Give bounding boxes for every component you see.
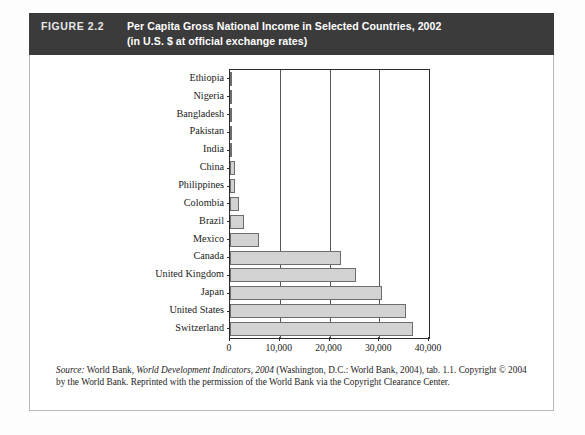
bar-row [230, 320, 429, 338]
bar [230, 215, 244, 229]
bar [230, 179, 235, 193]
bar-row [230, 231, 429, 249]
x-axis-tick [428, 337, 429, 341]
y-axis-category-labels: EthiopiaNigeriaBangladeshPakistanIndiaCh… [150, 69, 228, 337]
y-axis-label: Nigeria [150, 87, 228, 105]
figure-header: FIGURE 2.2 Per Capita Gross National Inc… [29, 13, 554, 55]
bar-row [230, 195, 429, 213]
y-axis-label: Bangladesh [150, 105, 228, 123]
bar-series [230, 70, 429, 338]
y-axis-label: Philippines [150, 176, 228, 194]
bar-row [230, 249, 429, 267]
figure-title-line-1: Per Capita Gross National Income in Sele… [127, 19, 441, 34]
y-axis-label: Brazil [150, 212, 228, 230]
x-axis-tick-label: 0 [227, 342, 232, 353]
bar [230, 143, 232, 157]
source-note: Source: World Bank, World Development In… [56, 364, 530, 389]
y-axis-label: Mexico [150, 230, 228, 248]
y-axis-label: United Kingdom [150, 265, 228, 283]
y-axis-label: China [150, 158, 228, 176]
bar [230, 108, 232, 122]
chart-container: EthiopiaNigeriaBangladeshPakistanIndiaCh… [30, 56, 553, 356]
y-axis-label: Colombia [150, 194, 228, 212]
x-axis-tick-label: 20,000 [315, 342, 341, 353]
bar [230, 90, 232, 104]
source-line-3: Clearance Center. [384, 377, 450, 387]
bar [230, 126, 232, 140]
bar [230, 72, 232, 86]
bar-row [230, 88, 429, 106]
bar-row [230, 70, 429, 88]
source-text-after: (Washington, D.C.: World Bank, 2004), ta… [274, 365, 456, 375]
bar [230, 251, 341, 265]
x-axis-tick [378, 337, 379, 341]
bar [230, 304, 406, 318]
bar-row [230, 284, 429, 302]
bar-row [230, 124, 429, 142]
bar [230, 197, 239, 211]
x-axis-tick [329, 337, 330, 341]
bar-row [230, 177, 429, 195]
bar [230, 268, 356, 282]
x-axis: 010,00020,00030,00040,000 [229, 337, 430, 357]
x-axis-tick-label: 30,000 [365, 342, 391, 353]
bar [230, 286, 382, 300]
y-axis-label: Ethiopia [150, 69, 228, 87]
x-axis-tick-label: 40,000 [415, 342, 441, 353]
bar-row [230, 141, 429, 159]
source-word: Source: [56, 365, 85, 375]
bar-row [230, 159, 429, 177]
figure-title-block: Per Capita Gross National Income in Sele… [127, 19, 441, 48]
y-axis-label: Switzerland [150, 319, 228, 337]
figure-number-label: FIGURE 2.2 [29, 19, 127, 48]
figure-page: FIGURE 2.2 Per Capita Gross National Inc… [0, 0, 585, 435]
y-axis-label: Japan [150, 283, 228, 301]
bar-row [230, 106, 429, 124]
x-axis-tick-label: 10,000 [266, 342, 292, 353]
y-axis-label: Canada [150, 248, 228, 266]
source-text-before: World Bank, [85, 365, 137, 375]
bar [230, 233, 259, 247]
y-axis-label: India [150, 140, 228, 158]
bar-row [230, 302, 429, 320]
plot-area [229, 69, 430, 339]
bar [230, 161, 235, 175]
source-publication-title: World Development Indicators, 2004 [136, 365, 274, 375]
x-axis-tick [279, 337, 280, 341]
bar-row [230, 266, 429, 284]
y-axis-label: Pakistan [150, 123, 228, 141]
bar-row [230, 213, 429, 231]
figure-title-line-2: (in U.S. $ at official exchange rates) [127, 34, 441, 49]
y-axis-label: United States [150, 301, 228, 319]
bar [230, 322, 413, 336]
x-axis-tick [229, 337, 230, 341]
